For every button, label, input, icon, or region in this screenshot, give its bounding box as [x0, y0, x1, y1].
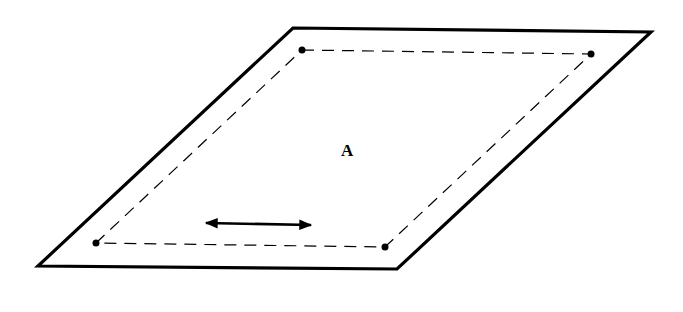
vertex-dot: [299, 47, 306, 54]
vertex-dot: [93, 240, 100, 247]
region-label: A: [341, 141, 354, 160]
vertex-dot: [382, 244, 389, 251]
double-arrow-icon: [206, 223, 311, 225]
diagram-canvas: A: [0, 0, 683, 312]
vertex-dot: [588, 51, 595, 58]
